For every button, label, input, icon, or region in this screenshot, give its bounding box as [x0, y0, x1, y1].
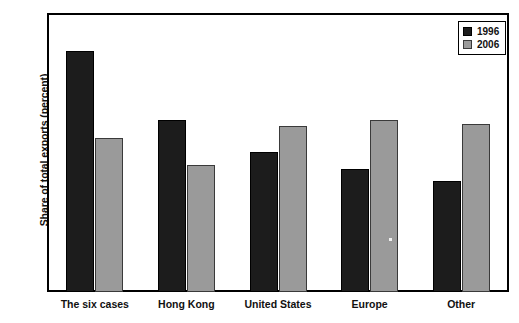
legend-swatch-1996 — [463, 27, 472, 36]
bar-chart: Share of total exports (percent) 0510152… — [0, 0, 519, 323]
bar-1996-hong-kong — [158, 120, 186, 292]
chart-legend: 1996 2006 — [458, 21, 506, 55]
legend-item-1996: 1996 — [463, 25, 499, 38]
bar-group — [158, 15, 215, 292]
scan-artifact-speck — [389, 238, 392, 241]
bar-2006-the-six-cases — [95, 138, 123, 292]
bar-2006-united-states — [279, 126, 307, 292]
x-tick-label: United States — [244, 298, 311, 310]
bar-1996-other — [433, 181, 461, 292]
bars-layer — [49, 15, 507, 292]
bar-2006-europe — [370, 120, 398, 292]
x-tick-label: The six cases — [61, 298, 129, 310]
legend-swatch-2006 — [463, 40, 472, 49]
legend-label-2006: 2006 — [477, 40, 499, 50]
legend-label-1996: 1996 — [477, 27, 499, 37]
bar-2006-other — [462, 124, 490, 292]
x-tick-label: Europe — [352, 298, 388, 310]
x-tick-label: Other — [447, 298, 475, 310]
bar-group — [250, 15, 307, 292]
x-tick-label: Hong Kong — [158, 298, 215, 310]
bar-group — [66, 15, 123, 292]
bar-group — [341, 15, 398, 292]
bar-1996-europe — [341, 169, 369, 292]
bar-group — [433, 15, 490, 292]
bar-1996-united-states — [250, 152, 278, 292]
bar-2006-hong-kong — [187, 165, 215, 292]
legend-item-2006: 2006 — [463, 38, 499, 51]
bar-1996-the-six-cases — [66, 51, 94, 292]
